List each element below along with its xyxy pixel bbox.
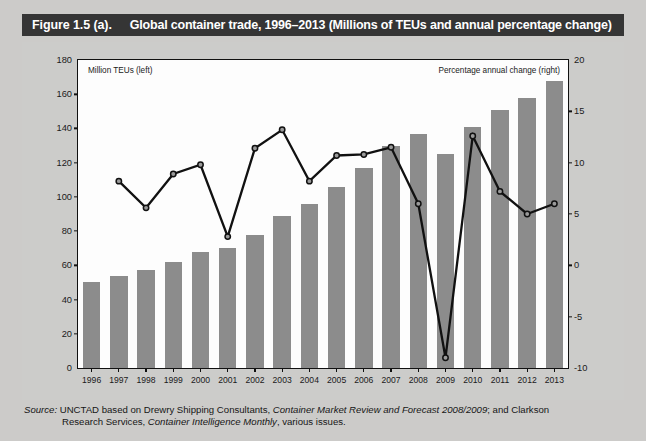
source-note: Source: UNCTAD based on Drewry Shipping …: [24, 404, 626, 429]
figure-page: Figure 1.5 (a). Global container trade, …: [0, 0, 646, 441]
x-tick-label: 2012: [518, 375, 537, 385]
x-tick-mark: [418, 368, 419, 372]
y-tick-label-right: 20: [568, 55, 584, 65]
chart-card: Million TEUs (left) Percentage annual ch…: [22, 42, 624, 400]
line-marker: [116, 178, 121, 183]
source-line2-a: Research Services,: [62, 416, 148, 427]
x-tick-mark: [472, 368, 473, 372]
figure-number: Figure 1.5 (a).: [32, 18, 112, 32]
x-tick-label: 2009: [436, 375, 455, 385]
source-line1-title: Container Market Review and Forecast 200…: [273, 404, 487, 415]
source-line2-title: Container Intelligence Monthly: [148, 416, 277, 427]
source-line1-b: ; and Clarkson: [487, 404, 549, 415]
line-marker: [171, 171, 176, 176]
y-tick-label-left: 0: [67, 363, 78, 373]
x-tick-label: 2011: [491, 375, 509, 385]
x-tick-mark: [118, 368, 119, 372]
x-tick-mark: [499, 368, 500, 372]
source-line1-a: UNCTAD based on Drewry Shipping Consulta…: [60, 404, 273, 415]
line-path: [119, 130, 555, 358]
line-marker: [443, 355, 448, 360]
line-marker: [334, 153, 339, 158]
x-tick-mark: [527, 368, 528, 372]
x-tick-label: 1998: [136, 375, 155, 385]
x-tick-mark: [445, 368, 446, 372]
x-tick-label: 1999: [164, 375, 183, 385]
source-label: Source:: [24, 404, 57, 415]
y-tick-mark-right: [568, 213, 572, 214]
x-tick-label: 2003: [273, 375, 292, 385]
x-tick-label: 2013: [545, 375, 564, 385]
y-tick-label-left: 180: [56, 55, 78, 65]
x-tick-mark: [336, 368, 337, 372]
x-tick-mark: [200, 368, 201, 372]
line-series: [78, 60, 568, 368]
x-tick-label: 2004: [300, 375, 319, 385]
y-tick-label-right: -10: [568, 363, 587, 373]
figure-title: Global container trade, 1996–2013 (Milli…: [130, 18, 612, 32]
x-tick-label: 2006: [354, 375, 373, 385]
plot-area: Million TEUs (left) Percentage annual ch…: [77, 59, 569, 369]
line-marker: [470, 133, 475, 138]
x-tick-label: 2010: [463, 375, 482, 385]
source-line2-b: , various issues.: [277, 416, 346, 427]
line-marker: [252, 146, 257, 151]
x-tick-label: 2002: [245, 375, 264, 385]
y-tick-mark-right: [568, 162, 572, 163]
line-marker: [143, 205, 148, 210]
x-tick-mark: [390, 368, 391, 372]
x-tick-label: 1996: [82, 375, 101, 385]
x-tick-label: 2001: [218, 375, 237, 385]
line-marker: [307, 178, 312, 183]
figure-title-bar: Figure 1.5 (a). Global container trade, …: [22, 14, 624, 36]
x-tick-label: 2007: [381, 375, 400, 385]
x-tick-label: 1997: [109, 375, 128, 385]
x-tick-label: 2008: [409, 375, 428, 385]
x-tick-mark: [254, 368, 255, 372]
line-marker: [279, 127, 284, 132]
x-tick-mark: [227, 368, 228, 372]
line-marker: [388, 145, 393, 150]
x-tick-mark: [363, 368, 364, 372]
x-tick-mark: [554, 368, 555, 372]
x-tick-label: 2005: [327, 375, 346, 385]
x-tick-mark: [282, 368, 283, 372]
x-tick-mark: [145, 368, 146, 372]
y-tick-mark-right: [568, 265, 572, 266]
x-tick-label: 2000: [191, 375, 210, 385]
x-tick-mark: [173, 368, 174, 372]
x-tick-mark: [91, 368, 92, 372]
line-marker: [524, 211, 529, 216]
line-marker: [552, 201, 557, 206]
y-tick-mark-right: [568, 316, 572, 317]
y-tick-mark-right: [568, 111, 572, 112]
line-marker: [361, 152, 366, 157]
line-marker: [416, 201, 421, 206]
line-marker: [225, 234, 230, 239]
line-marker: [198, 162, 203, 167]
x-tick-mark: [309, 368, 310, 372]
line-marker: [497, 189, 502, 194]
